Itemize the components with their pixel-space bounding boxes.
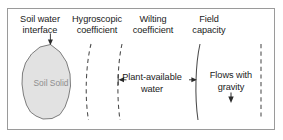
- label-flows-with-gravity-line2: gravity: [201, 82, 261, 94]
- label-hygroscopic-coefficient-line1: Hygroscopic: [66, 14, 128, 25]
- gravity-down-arrow: [228, 93, 233, 104]
- label-hygroscopic-coefficient-line2: coefficient: [66, 25, 128, 36]
- label-wilting-coefficient-line1: Wilting: [124, 14, 182, 25]
- label-flows-with-gravity: Flows with gravity: [201, 70, 261, 93]
- soil-water-diagram: Soil water interface Hygroscopic coeffic…: [0, 0, 283, 140]
- label-plant-available-water: Plant-available water: [122, 72, 182, 95]
- label-soil-water-interface: Soil water interface: [12, 14, 68, 35]
- label-field-capacity: Field capacity: [183, 14, 235, 35]
- label-soil-water-interface-line1: Soil water: [12, 14, 68, 25]
- label-flows-with-gravity-line1: Flows with: [201, 70, 261, 82]
- label-soil-solid: Soil Solid: [26, 78, 76, 88]
- label-plant-available-water-line2: water: [122, 84, 182, 96]
- label-field-capacity-line2: capacity: [183, 25, 235, 36]
- label-wilting-coefficient: Wilting coefficient: [124, 14, 182, 35]
- label-field-capacity-line1: Field: [183, 14, 235, 25]
- interface-pointer-arrow: [48, 34, 53, 46]
- label-plant-available-water-line1: Plant-available: [122, 72, 182, 84]
- field-capacity-line: [196, 44, 200, 120]
- label-hygroscopic-coefficient: Hygroscopic coefficient: [66, 14, 128, 35]
- label-wilting-coefficient-line2: coefficient: [124, 25, 182, 36]
- label-soil-water-interface-line2: interface: [12, 25, 68, 36]
- hygroscopic-coefficient-line: [86, 44, 91, 120]
